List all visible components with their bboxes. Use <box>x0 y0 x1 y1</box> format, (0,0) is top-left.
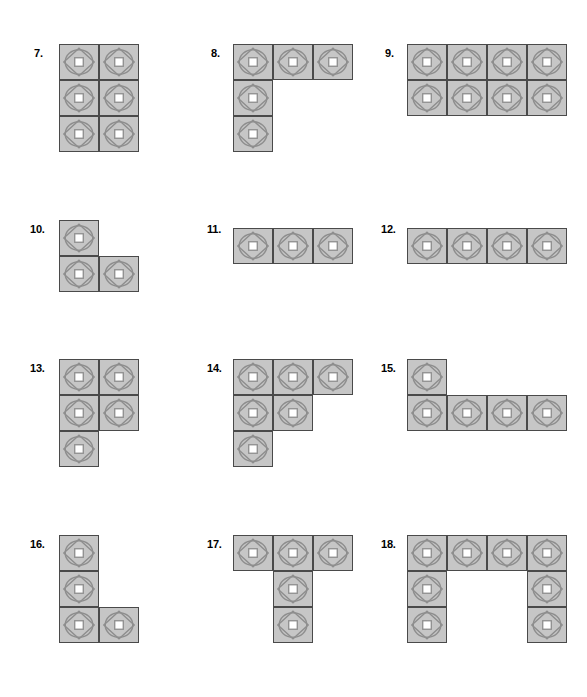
center-square-icon <box>503 549 512 558</box>
center-square-icon <box>543 94 552 103</box>
shape-cell[interactable] <box>407 228 447 264</box>
problem-number-label: 15. <box>381 363 396 374</box>
shape-cell[interactable] <box>273 44 313 80</box>
problem-number-label: 18. <box>381 539 396 550</box>
worksheet-canvas: 7.8.9.10.11.12.13.14.15.16.17.18. <box>0 0 587 697</box>
center-square-icon <box>75 373 84 382</box>
shape-cell[interactable] <box>273 607 313 643</box>
center-square-icon <box>543 409 552 418</box>
shape-cell[interactable] <box>527 80 567 116</box>
shape-cell[interactable] <box>233 359 273 395</box>
shape-cell[interactable] <box>273 395 313 431</box>
shape-cell[interactable] <box>487 535 527 571</box>
center-square-icon <box>115 409 124 418</box>
shape-cell[interactable] <box>447 228 487 264</box>
shape-cell[interactable] <box>233 228 273 264</box>
shape-cell[interactable] <box>313 535 353 571</box>
shape-cell[interactable] <box>59 535 99 571</box>
center-square-icon <box>289 585 298 594</box>
shape-cell[interactable] <box>273 535 313 571</box>
center-square-icon <box>543 58 552 67</box>
problem-number-label: 12. <box>381 224 396 235</box>
shape-cell[interactable] <box>447 44 487 80</box>
shape-cell[interactable] <box>407 80 447 116</box>
shape-cell[interactable] <box>487 80 527 116</box>
shape-cell[interactable] <box>233 44 273 80</box>
center-square-icon <box>289 58 298 67</box>
shape-cell[interactable] <box>313 359 353 395</box>
shape-cell[interactable] <box>233 431 273 467</box>
shape-cell[interactable] <box>487 44 527 80</box>
problem-number-label: 8. <box>211 48 220 59</box>
shape-cell[interactable] <box>59 607 99 643</box>
center-square-icon <box>115 130 124 139</box>
shape-cell[interactable] <box>407 395 447 431</box>
shape-cell[interactable] <box>487 228 527 264</box>
center-square-icon <box>115 270 124 279</box>
shape-cell[interactable] <box>233 80 273 116</box>
center-square-icon <box>75 94 84 103</box>
shape-cell[interactable] <box>59 80 99 116</box>
center-square-icon <box>543 621 552 630</box>
shape-cell[interactable] <box>407 535 447 571</box>
shape-cell[interactable] <box>487 395 527 431</box>
shape-cell[interactable] <box>527 571 567 607</box>
center-square-icon <box>115 94 124 103</box>
shape-cell[interactable] <box>447 535 487 571</box>
shape-cell[interactable] <box>447 80 487 116</box>
shape-cell[interactable] <box>527 228 567 264</box>
shape-cell[interactable] <box>407 571 447 607</box>
shape-grid <box>233 228 353 264</box>
shape-grid <box>407 44 567 116</box>
center-square-icon <box>249 58 258 67</box>
shape-cell[interactable] <box>233 395 273 431</box>
problem-number-label: 16. <box>30 539 45 550</box>
shape-cell[interactable] <box>99 607 139 643</box>
shape-cell[interactable] <box>59 359 99 395</box>
shape-cell[interactable] <box>59 44 99 80</box>
problem-number-label: 14. <box>207 363 222 374</box>
center-square-icon <box>423 549 432 558</box>
center-square-icon <box>329 242 338 251</box>
shape-cell[interactable] <box>233 535 273 571</box>
shape-cell[interactable] <box>99 359 139 395</box>
shape-cell[interactable] <box>527 607 567 643</box>
shape-grid <box>59 535 139 643</box>
shape-cell[interactable] <box>59 116 99 152</box>
shape-cell[interactable] <box>273 359 313 395</box>
center-square-icon <box>289 373 298 382</box>
shape-cell[interactable] <box>233 116 273 152</box>
shape-cell[interactable] <box>99 116 139 152</box>
shape-cell[interactable] <box>99 395 139 431</box>
shape-cell[interactable] <box>313 44 353 80</box>
shape-cell[interactable] <box>99 44 139 80</box>
shape-cell[interactable] <box>59 431 99 467</box>
shape-cell[interactable] <box>273 571 313 607</box>
shape-cell[interactable] <box>99 256 139 292</box>
center-square-icon <box>75 234 84 243</box>
shape-cell[interactable] <box>313 228 353 264</box>
problem-number-label: 13. <box>30 363 45 374</box>
shape-cell[interactable] <box>527 395 567 431</box>
center-square-icon <box>115 373 124 382</box>
shape-cell[interactable] <box>527 535 567 571</box>
problem-number-label: 11. <box>207 224 221 235</box>
shape-cell[interactable] <box>59 571 99 607</box>
shape-cell[interactable] <box>407 44 447 80</box>
shape-cell[interactable] <box>99 80 139 116</box>
shape-cell[interactable] <box>447 395 487 431</box>
center-square-icon <box>423 621 432 630</box>
center-square-icon <box>329 373 338 382</box>
center-square-icon <box>289 409 298 418</box>
shape-cell[interactable] <box>59 395 99 431</box>
shape-cell[interactable] <box>527 44 567 80</box>
shape-cell[interactable] <box>407 607 447 643</box>
shape-cell[interactable] <box>273 228 313 264</box>
shape-grid <box>233 535 353 643</box>
shape-cell[interactable] <box>407 359 447 395</box>
center-square-icon <box>463 242 472 251</box>
shape-cell[interactable] <box>59 220 99 256</box>
problem-number-label: 7. <box>34 48 43 59</box>
center-square-icon <box>249 373 258 382</box>
shape-cell[interactable] <box>59 256 99 292</box>
